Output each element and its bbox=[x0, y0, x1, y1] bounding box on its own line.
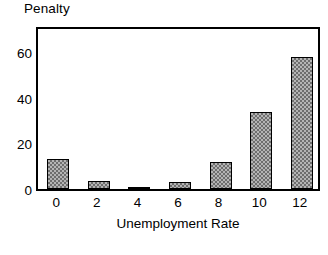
bar bbox=[291, 57, 313, 189]
y-axis-tick-labels: 0204060 bbox=[0, 27, 32, 191]
chart-title: Penalty bbox=[24, 1, 70, 16]
x-axis-title: Unemployment Rate bbox=[36, 216, 320, 231]
x-axis-tick-label: 4 bbox=[134, 196, 142, 210]
bar bbox=[47, 159, 69, 189]
bar bbox=[250, 112, 272, 189]
bar bbox=[88, 181, 110, 189]
x-axis-tick-labels: 024681012 bbox=[36, 196, 320, 214]
y-axis-tick-label: 60 bbox=[0, 48, 32, 62]
y-axis-tick-label: 0 bbox=[0, 184, 32, 198]
plot-frame bbox=[36, 27, 320, 191]
y-axis-tick-label: 40 bbox=[0, 93, 32, 107]
x-axis-tick-label: 8 bbox=[215, 196, 223, 210]
x-axis-tick-label: 0 bbox=[53, 196, 61, 210]
plot-area bbox=[38, 29, 318, 189]
x-axis-tick-label: 2 bbox=[93, 196, 101, 210]
x-axis-tick-label: 6 bbox=[174, 196, 182, 210]
x-axis-tick-label: 10 bbox=[252, 196, 267, 210]
x-axis-tick-label: 12 bbox=[292, 196, 307, 210]
bar bbox=[210, 162, 232, 189]
y-axis-tick-label: 20 bbox=[0, 139, 32, 153]
bar bbox=[169, 182, 191, 189]
bar bbox=[128, 187, 150, 189]
bar-chart: Penalty 0204060 024681012 Unemployment R… bbox=[0, 0, 328, 255]
